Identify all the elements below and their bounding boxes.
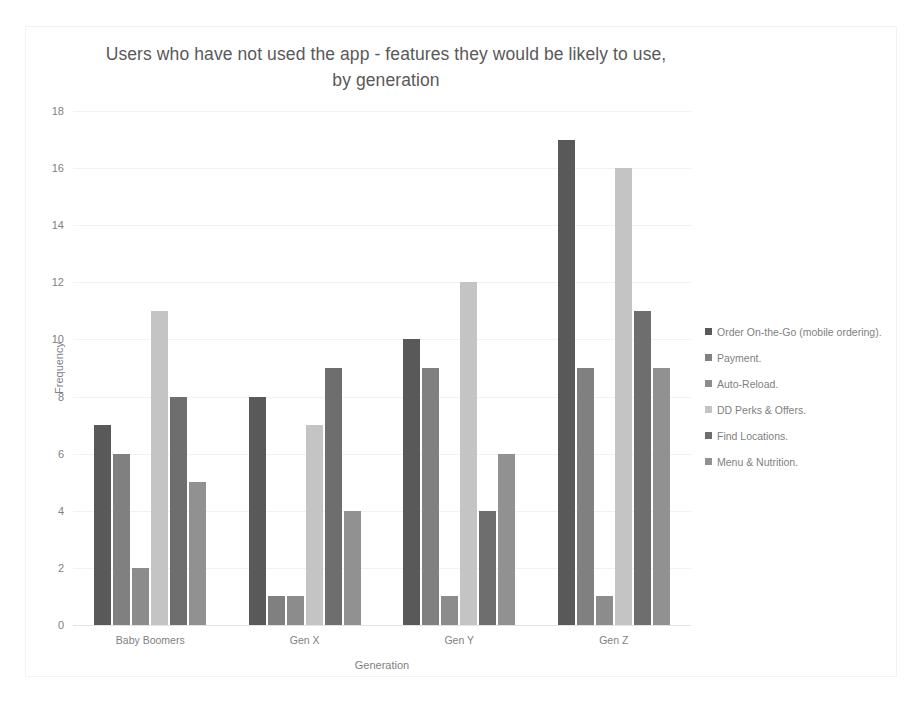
- bar[interactable]: [653, 368, 670, 625]
- y-axis-title: Frequency: [53, 342, 65, 394]
- legend-swatch-icon: [705, 458, 712, 465]
- legend-item[interactable]: Menu & Nutrition.: [705, 456, 900, 468]
- bar[interactable]: [113, 454, 130, 625]
- legend-swatch-icon: [705, 328, 712, 335]
- x-axis-category-label: Baby Boomers: [73, 634, 228, 646]
- chart-legend: Order On-the-Go (mobile ordering).Paymen…: [705, 326, 900, 482]
- x-axis-title: Generation: [73, 659, 691, 671]
- category-group: Gen Y: [382, 111, 537, 625]
- bar[interactable]: [268, 596, 285, 625]
- x-axis-category-label: Gen Y: [382, 634, 537, 646]
- bar[interactable]: [479, 511, 496, 625]
- bar[interactable]: [634, 311, 651, 625]
- category-group: Gen Z: [537, 111, 692, 625]
- legend-item-label: Find Locations.: [717, 430, 788, 442]
- bar[interactable]: [596, 596, 613, 625]
- bar[interactable]: [615, 168, 632, 625]
- y-axis-tick-label: 14: [52, 219, 64, 231]
- chart-container: Users who have not used the app - featur…: [25, 26, 897, 677]
- bar[interactable]: [325, 368, 342, 625]
- bar[interactable]: [577, 368, 594, 625]
- legend-item[interactable]: Find Locations.: [705, 430, 900, 442]
- category-group: Baby Boomers: [73, 111, 228, 625]
- legend-item[interactable]: DD Perks & Offers.: [705, 404, 900, 416]
- bar[interactable]: [344, 511, 361, 625]
- bar[interactable]: [287, 596, 304, 625]
- y-axis-tick-label: 18: [52, 105, 64, 117]
- legend-item[interactable]: Order On-the-Go (mobile ordering).: [705, 326, 900, 338]
- bar[interactable]: [249, 397, 266, 625]
- legend-item-label: Auto-Reload.: [717, 378, 778, 390]
- legend-swatch-icon: [705, 380, 712, 387]
- bar[interactable]: [441, 596, 458, 625]
- legend-item-label: Payment.: [717, 352, 761, 364]
- y-axis-tick-label: 0: [58, 619, 64, 631]
- bar[interactable]: [151, 311, 168, 625]
- category-group: Gen X: [228, 111, 383, 625]
- bar[interactable]: [460, 282, 477, 625]
- bar[interactable]: [498, 454, 515, 625]
- legend-item[interactable]: Payment.: [705, 352, 900, 364]
- chart-title: Users who have not used the app - featur…: [86, 41, 686, 93]
- bar[interactable]: [403, 339, 420, 625]
- y-axis-tick-label: 4: [58, 505, 64, 517]
- y-axis-tick-label: 2: [58, 562, 64, 574]
- bar[interactable]: [558, 140, 575, 625]
- y-axis-tick-label: 6: [58, 448, 64, 460]
- gridline: [73, 625, 691, 626]
- bar[interactable]: [422, 368, 439, 625]
- plot-area: 181614121086420 Frequency Baby BoomersGe…: [73, 111, 691, 625]
- legend-item[interactable]: Auto-Reload.: [705, 378, 900, 390]
- bar[interactable]: [170, 397, 187, 625]
- legend-item-label: Order On-the-Go (mobile ordering).: [717, 326, 882, 338]
- legend-swatch-icon: [705, 354, 712, 361]
- legend-swatch-icon: [705, 432, 712, 439]
- x-axis-category-label: Gen Z: [537, 634, 692, 646]
- y-axis-tick-label: 16: [52, 162, 64, 174]
- legend-item-label: Menu & Nutrition.: [717, 456, 798, 468]
- x-axis-category-label: Gen X: [228, 634, 383, 646]
- legend-swatch-icon: [705, 406, 712, 413]
- bar[interactable]: [306, 425, 323, 625]
- bar[interactable]: [94, 425, 111, 625]
- chart-title-line-2: by generation: [86, 67, 686, 93]
- legend-item-label: DD Perks & Offers.: [717, 404, 806, 416]
- chart-title-line-1: Users who have not used the app - featur…: [86, 41, 686, 67]
- bar[interactable]: [132, 568, 149, 625]
- bar[interactable]: [189, 482, 206, 625]
- y-axis-tick-label: 12: [52, 276, 64, 288]
